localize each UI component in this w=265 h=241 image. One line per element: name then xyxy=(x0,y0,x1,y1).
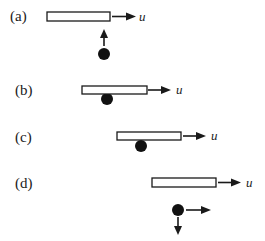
ball xyxy=(98,48,110,60)
ball-velocity-right-arrow-icon xyxy=(186,206,211,214)
panel-label: (d) xyxy=(15,175,33,192)
panel-a: (a) u xyxy=(10,8,146,60)
rod xyxy=(82,86,147,94)
panel-label: (a) xyxy=(10,8,27,25)
rod-velocity-arrow-icon xyxy=(218,179,241,187)
velocity-label: u xyxy=(246,175,253,190)
panel-c: (c) u xyxy=(15,128,218,152)
ball xyxy=(172,204,184,216)
ball-velocity-up-arrow-icon xyxy=(100,29,108,46)
collision-diagram: (a) u (b) u (c) u (d xyxy=(0,0,265,241)
panel-d: (d) u xyxy=(15,175,253,235)
velocity-label: u xyxy=(211,128,218,143)
rod-velocity-arrow-icon xyxy=(112,13,136,21)
velocity-label: u xyxy=(139,9,146,24)
ball xyxy=(135,140,147,152)
panel-label: (c) xyxy=(15,129,32,146)
rod xyxy=(152,178,216,187)
rod xyxy=(117,132,181,140)
rod-velocity-arrow-icon xyxy=(148,86,171,94)
ball-velocity-down-arrow-icon xyxy=(174,217,182,235)
rod-velocity-arrow-icon xyxy=(183,132,206,140)
ball xyxy=(101,93,113,105)
velocity-label: u xyxy=(176,82,183,97)
panel-label: (b) xyxy=(15,82,33,99)
panel-b: (b) u xyxy=(15,82,183,105)
rod xyxy=(47,12,110,21)
